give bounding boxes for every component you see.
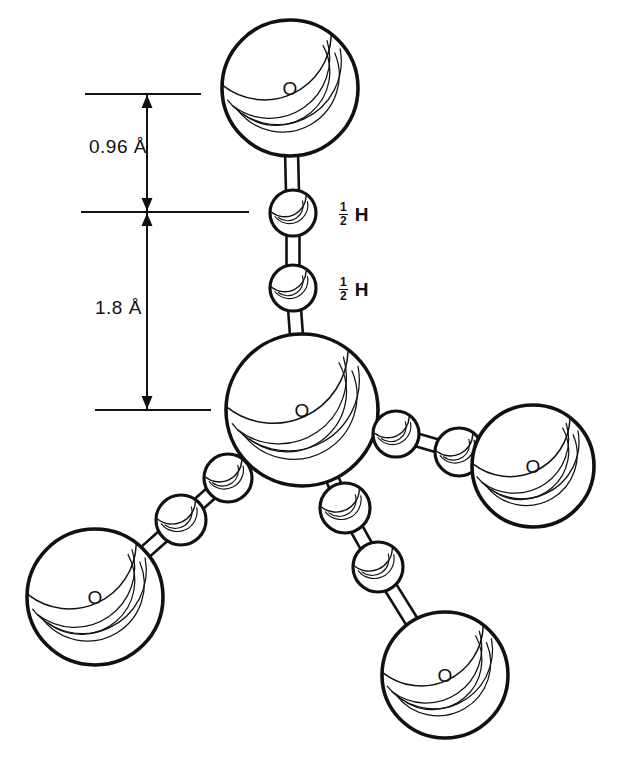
molecule-figure: OOOOO [0, 0, 621, 763]
sphere-outline[interactable] [204, 454, 252, 502]
sphere-outline[interactable] [353, 542, 403, 592]
element-symbol-h-upper: H [355, 204, 369, 226]
atom-H-right-in[interactable] [373, 411, 419, 457]
diagram-canvas: OOOOO 0.96 Å 1.8 Å 1 2 H 1 2 H [0, 0, 621, 763]
bond-O-top-to-H-upper [285, 154, 299, 192]
dimension-arrow-up-hydrogen [142, 213, 153, 226]
atom-label-O-right: O [526, 456, 541, 477]
bond-body [287, 234, 300, 267]
atom-H-bot-out[interactable] [353, 542, 403, 592]
fraction-numerator: 1 [339, 201, 348, 214]
atom-H-lower[interactable] [270, 265, 316, 311]
atom-label-O-left: O [88, 587, 103, 608]
dimension-label-covalent: 0.96 Å [89, 136, 147, 158]
fraction-denominator: 2 [339, 289, 348, 303]
bond-rail-0 [285, 154, 286, 192]
hydrogen-occupancy-label-upper: 1 2 H [339, 202, 368, 228]
element-symbol-h-lower: H [355, 279, 369, 301]
dimension-arrow-down-hydrogen [142, 396, 153, 409]
sphere-outline[interactable] [270, 190, 316, 236]
sphere-outline[interactable] [373, 411, 419, 457]
atom-label-O-bottom: O [438, 665, 453, 686]
sphere-outline[interactable] [270, 265, 316, 311]
atom-O-bottom[interactable]: O [382, 612, 508, 738]
bond-body [285, 154, 299, 192]
atom-H-upper[interactable] [270, 190, 316, 236]
fraction-one-half-upper: 1 2 [339, 201, 348, 227]
atom-O-left[interactable]: O [27, 529, 163, 665]
atom-layer: OOOOO [27, 20, 594, 738]
fraction-denominator: 2 [339, 214, 348, 228]
bond-H-upper-to-H-lower [287, 234, 300, 267]
bond-rail-1 [298, 154, 299, 192]
atom-O-top[interactable]: O [222, 20, 358, 156]
dimension-label-hydrogen: 1.8 Å [95, 297, 142, 319]
fraction-numerator: 1 [339, 276, 348, 289]
sphere-outline[interactable] [156, 495, 206, 545]
atom-label-O-center: O [295, 400, 310, 421]
atom-H-bot-in[interactable] [320, 483, 370, 533]
dimension-arrow-down-covalent [142, 198, 153, 211]
atom-H-left-in[interactable] [204, 454, 252, 502]
fraction-one-half-lower: 1 2 [339, 276, 348, 302]
atom-O-right[interactable]: O [472, 405, 594, 527]
atom-H-left-out[interactable] [156, 495, 206, 545]
sphere-outline[interactable] [320, 483, 370, 533]
dimension-arrow-up-covalent [142, 95, 153, 108]
atom-label-O-top: O [283, 78, 298, 99]
hydrogen-occupancy-label-lower: 1 2 H [339, 277, 368, 303]
